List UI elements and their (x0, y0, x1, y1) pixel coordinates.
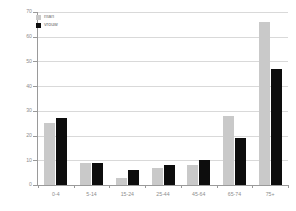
bar-vrouw-25-44 (164, 165, 175, 185)
chart-legend: man vrouw (36, 14, 58, 28)
y-axis-tick (33, 111, 37, 112)
x-axis-label-75+: 75+ (250, 192, 290, 197)
bar-vrouw-15-24 (128, 170, 139, 185)
x-axis-tick (38, 185, 39, 188)
y-axis-tick (33, 185, 37, 186)
bar-chart: 010203040506070 0-45-1415-2425-4445-6465… (0, 0, 296, 211)
bar-man-75+ (259, 22, 270, 185)
bar-vrouw-45-64 (199, 160, 210, 185)
bar-man-5-14 (80, 163, 91, 185)
legend-label-vrouw: vrouw (44, 22, 58, 27)
plot-area (38, 12, 288, 185)
bar-man-0-4 (44, 123, 55, 185)
y-axis-tick-label: 50 (12, 59, 32, 64)
bar-man-45-64 (187, 165, 198, 185)
y-axis-tick-label: 60 (12, 34, 32, 39)
y-axis-tick-label: 70 (12, 9, 32, 14)
y-axis-tick (33, 136, 37, 137)
legend-label-man: man (44, 14, 54, 19)
x-axis-tick (181, 185, 182, 188)
y-axis-tick (33, 160, 37, 161)
bar-man-25-44 (152, 168, 163, 185)
bar-man-15-24 (116, 178, 127, 185)
x-axis-label-25-44: 25-44 (143, 192, 183, 197)
x-axis-tick (109, 185, 110, 188)
x-axis-tick (252, 185, 253, 188)
x-axis-tick (145, 185, 146, 188)
y-axis-tick (33, 86, 37, 87)
x-axis-label-45-64: 45-64 (179, 192, 219, 197)
y-axis-tick (33, 37, 37, 38)
y-axis-tick (33, 12, 37, 13)
y-axis-tick (33, 61, 37, 62)
x-axis-label-5-14: 5-14 (72, 192, 112, 197)
legend-item-man: man (36, 14, 58, 20)
bar-man-65-74 (223, 116, 234, 185)
y-axis-tick-label: 0 (12, 182, 32, 187)
legend-item-vrouw: vrouw (36, 22, 58, 28)
bar-vrouw-75+ (271, 69, 282, 185)
bar-vrouw-0-4 (56, 118, 67, 185)
y-axis-tick-label: 40 (12, 84, 32, 89)
legend-swatch-man-icon (36, 15, 41, 20)
bar-vrouw-5-14 (92, 163, 103, 185)
x-axis-label-65-74: 65-74 (214, 192, 254, 197)
x-axis-label-0-4: 0-4 (36, 192, 76, 197)
x-axis-tick (288, 185, 289, 188)
x-axis-label-15-24: 15-24 (107, 192, 147, 197)
y-axis-tick-label: 20 (12, 133, 32, 138)
legend-swatch-vrouw-icon (36, 23, 41, 28)
x-axis-tick (74, 185, 75, 188)
bar-vrouw-65-74 (235, 138, 246, 185)
x-axis-tick (217, 185, 218, 188)
y-axis-tick-label: 10 (12, 158, 32, 163)
y-axis-tick-label: 30 (12, 108, 32, 113)
